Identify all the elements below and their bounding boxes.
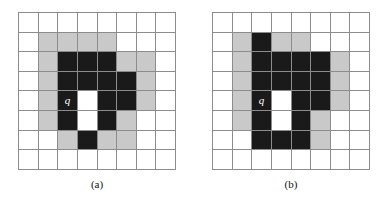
grid-cell bbox=[252, 131, 271, 150]
grid-cell bbox=[39, 33, 58, 52]
grid-cell bbox=[39, 52, 58, 71]
grid-cell bbox=[19, 52, 38, 71]
grid-cell bbox=[350, 150, 369, 169]
grid-cell bbox=[311, 150, 330, 169]
grid-cell bbox=[137, 13, 156, 32]
grid-cell bbox=[137, 150, 156, 169]
grid-cell bbox=[98, 91, 117, 110]
grid-cell bbox=[292, 150, 311, 169]
grid-cell bbox=[137, 33, 156, 52]
grid-cell bbox=[272, 131, 291, 150]
grid-cell bbox=[137, 131, 156, 150]
grid-cell bbox=[78, 91, 97, 110]
grid-cell bbox=[331, 33, 350, 52]
grid-cell bbox=[78, 33, 97, 52]
grid-cell bbox=[19, 72, 38, 91]
grid-cell bbox=[292, 111, 311, 130]
grid-cell bbox=[78, 72, 97, 91]
grid-cell bbox=[292, 131, 311, 150]
grid-cell bbox=[19, 150, 38, 169]
grid-cell bbox=[19, 111, 38, 130]
grid-cell bbox=[233, 131, 252, 150]
grid-cell bbox=[117, 72, 136, 91]
grid-cell bbox=[331, 150, 350, 169]
grid-b: q bbox=[212, 12, 370, 170]
grid-cell bbox=[58, 33, 77, 52]
grid-cell bbox=[292, 13, 311, 32]
grid-cell bbox=[272, 52, 291, 71]
grid-cell bbox=[331, 13, 350, 32]
grid-cell bbox=[98, 33, 117, 52]
grid-cell bbox=[117, 13, 136, 32]
grid-cell bbox=[331, 72, 350, 91]
grid-cell bbox=[213, 111, 232, 130]
grid-cell bbox=[272, 150, 291, 169]
grid-cell bbox=[39, 72, 58, 91]
grid-cell bbox=[311, 52, 330, 71]
grid-cell bbox=[252, 150, 271, 169]
grid-cell bbox=[58, 52, 77, 71]
grid-cell bbox=[350, 111, 369, 130]
grid-cell bbox=[156, 72, 175, 91]
grid-cell bbox=[156, 33, 175, 52]
grid-cell bbox=[252, 33, 271, 52]
grid-cell bbox=[19, 91, 38, 110]
grid-cell bbox=[98, 72, 117, 91]
grid-cell bbox=[117, 111, 136, 130]
grid-cell bbox=[292, 72, 311, 91]
grid-cell bbox=[331, 91, 350, 110]
grid-cell bbox=[331, 52, 350, 71]
grid-cell bbox=[58, 111, 77, 130]
grid-cell bbox=[39, 150, 58, 169]
grid-cell bbox=[272, 91, 291, 110]
grid-cell bbox=[331, 111, 350, 130]
grid-cell bbox=[19, 13, 38, 32]
grid-cell bbox=[233, 111, 252, 130]
grid-cell bbox=[117, 150, 136, 169]
grid-cell bbox=[213, 131, 232, 150]
grid-cell bbox=[252, 13, 271, 32]
grid-cell bbox=[233, 150, 252, 169]
query-point-cell: q bbox=[58, 91, 77, 110]
grid-cell bbox=[78, 52, 97, 71]
grid-cell bbox=[311, 131, 330, 150]
grid-cell bbox=[350, 131, 369, 150]
grid-cell bbox=[137, 72, 156, 91]
grid-cell bbox=[39, 111, 58, 130]
grid-cell bbox=[292, 52, 311, 71]
grid-cell bbox=[98, 131, 117, 150]
grid-cell bbox=[156, 111, 175, 130]
grid-cell bbox=[350, 91, 369, 110]
grid-cell bbox=[233, 13, 252, 32]
grid-cell bbox=[311, 33, 330, 52]
grid-cell bbox=[98, 13, 117, 32]
grid-cell bbox=[213, 72, 232, 91]
grid-cell bbox=[350, 72, 369, 91]
grid-cell bbox=[252, 111, 271, 130]
grid-cell bbox=[19, 33, 38, 52]
grid-cell bbox=[350, 33, 369, 52]
grid-cell bbox=[156, 13, 175, 32]
grid-cell bbox=[350, 52, 369, 71]
grid-cell bbox=[272, 111, 291, 130]
grid-cell bbox=[213, 13, 232, 32]
grid-cell bbox=[233, 91, 252, 110]
caption-b: (b) bbox=[285, 178, 298, 190]
grid-cell bbox=[311, 13, 330, 32]
grid-cell bbox=[137, 111, 156, 130]
grid-cell bbox=[156, 91, 175, 110]
grid-cell bbox=[117, 91, 136, 110]
grid-cell bbox=[233, 52, 252, 71]
grid-cell bbox=[156, 52, 175, 71]
query-point-cell: q bbox=[252, 91, 271, 110]
grid-cell bbox=[292, 91, 311, 110]
grid-cell bbox=[272, 72, 291, 91]
grid-cell bbox=[137, 52, 156, 71]
panel-b: q (b) bbox=[194, 0, 388, 205]
grid-cell bbox=[78, 111, 97, 130]
figure-container: q (a) q (b) bbox=[0, 0, 389, 205]
grid-cell bbox=[19, 131, 38, 150]
grid-cell bbox=[117, 131, 136, 150]
panel-a: q (a) bbox=[0, 0, 194, 205]
grid-cell bbox=[311, 91, 330, 110]
